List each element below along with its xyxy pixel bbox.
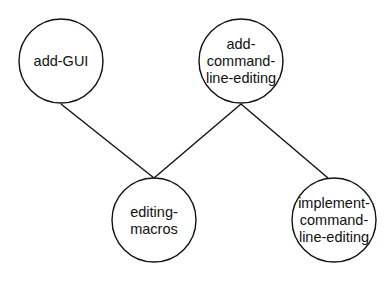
node-label-line: command- [300,212,369,228]
node-add-command-line-editing: add-command-line-editing [199,19,283,103]
node-implement-command-line-editing: implement-command-line-editing [292,178,376,262]
dependency-diagram: add-GUIadd-command-line-editingediting-m… [0,0,389,282]
node-label-line: add- [226,36,255,52]
node-add-GUI: add-GUI [19,19,103,103]
edge-add-command-line-editing-to-implement-command-line-editing [241,104,328,178]
node-label-line: macros [130,221,178,237]
edges-layer [61,104,328,178]
node-label-line: line-editing [206,70,276,86]
edge-add-command-line-editing-to-editing-macros [154,104,241,178]
node-label-line: implement- [298,195,370,211]
node-label-line: command- [207,53,276,69]
node-label-line: line-editing [299,229,369,245]
edge-add-GUI-to-editing-macros [61,104,154,178]
node-label-line: add-GUI [34,53,89,69]
node-editing-macros: editing-macros [112,178,196,262]
node-label-line: editing- [130,204,178,220]
